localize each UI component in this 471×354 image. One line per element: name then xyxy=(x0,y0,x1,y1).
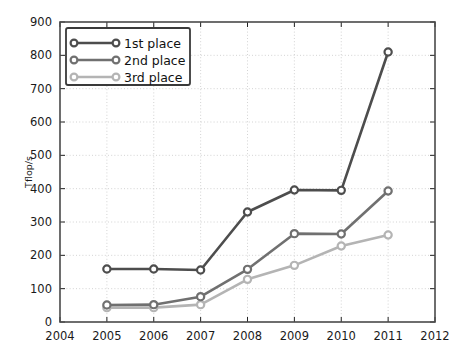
legend-marker xyxy=(113,74,120,81)
line-chart: 200420052006200720082009201020112012 010… xyxy=(0,0,471,354)
x-tick-label: 2012 xyxy=(420,329,449,343)
data-point xyxy=(244,276,251,283)
data-point xyxy=(338,187,345,194)
y-tick-label: 600 xyxy=(30,115,52,129)
data-point xyxy=(244,208,251,215)
legend-label: 1st place xyxy=(124,36,181,51)
x-tick-label: 2010 xyxy=(327,329,356,343)
y-tick-label: 900 xyxy=(30,15,52,29)
x-axis-tick-labels: 200420052006200720082009201020112012 xyxy=(45,329,449,343)
legend-marker xyxy=(71,74,78,81)
legend-label: 2nd place xyxy=(124,53,186,68)
x-tick-label: 2011 xyxy=(373,329,402,343)
data-point xyxy=(291,186,298,193)
data-point xyxy=(338,230,345,237)
data-point xyxy=(244,266,251,273)
data-point xyxy=(150,301,157,308)
legend-marker xyxy=(113,57,120,64)
data-point xyxy=(197,266,204,273)
data-point xyxy=(385,231,392,238)
legend-marker xyxy=(113,40,120,47)
y-tick-label: 0 xyxy=(45,315,52,329)
data-point xyxy=(103,265,110,272)
y-tick-label: 700 xyxy=(30,82,52,96)
data-point xyxy=(338,242,345,249)
x-tick-label: 2008 xyxy=(233,329,262,343)
data-point xyxy=(103,301,110,308)
data-point xyxy=(385,48,392,55)
x-tick-label: 2009 xyxy=(280,329,309,343)
data-point xyxy=(197,293,204,300)
legend-marker xyxy=(71,40,78,47)
data-point xyxy=(291,262,298,269)
y-tick-label: 800 xyxy=(30,48,52,62)
data-point xyxy=(385,187,392,194)
x-tick-label: 2004 xyxy=(45,329,74,343)
chart-figure: 200420052006200720082009201020112012 010… xyxy=(0,0,471,354)
chart-legend[interactable]: 1st place2nd place3rd place xyxy=(66,28,190,85)
legend-marker xyxy=(71,57,78,64)
y-tick-label: 100 xyxy=(30,282,52,296)
legend-items: 1st place2nd place3rd place xyxy=(71,36,186,85)
x-tick-label: 2007 xyxy=(186,329,215,343)
data-point xyxy=(291,230,298,237)
y-tick-label: 200 xyxy=(30,248,52,262)
data-point xyxy=(150,265,157,272)
x-tick-label: 2006 xyxy=(139,329,168,343)
legend-label: 3rd place xyxy=(124,70,183,85)
y-tick-label: 300 xyxy=(30,215,52,229)
x-tick-label: 2005 xyxy=(92,329,121,343)
data-point xyxy=(197,301,204,308)
y-axis-title: Tflop/s xyxy=(23,156,34,189)
